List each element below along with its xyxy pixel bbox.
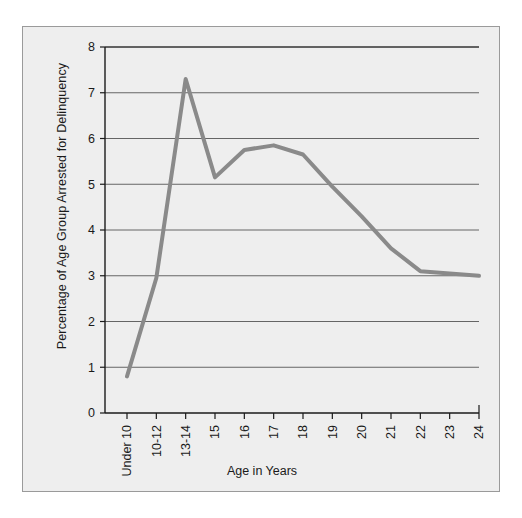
x-tick-label: 19 [326, 425, 340, 439]
y-tick-marks-group [100, 47, 105, 413]
data-series-line [127, 79, 479, 376]
x-tick-label: 20 [355, 425, 369, 439]
x-tick-label: 21 [384, 425, 398, 439]
y-tick-label: 6 [88, 132, 95, 146]
plot-container: Percentage of Age Group Arrested for Del… [23, 27, 501, 493]
y-tick-label: 2 [88, 315, 95, 329]
x-tick-label: 22 [414, 425, 428, 439]
y-tick-label: 0 [88, 406, 95, 420]
x-tick-label: 23 [443, 425, 457, 439]
chart-figure: Percentage of Age Group Arrested for Del… [22, 26, 500, 492]
x-tick-label: 24 [472, 425, 486, 439]
x-tick-label: 13-14 [179, 425, 193, 457]
x-tick-marks-group [127, 413, 479, 419]
y-tick-label: 8 [88, 40, 95, 54]
y-tick-label: 5 [88, 178, 95, 192]
gridlines-group [105, 47, 479, 413]
y-tick-label: 7 [88, 86, 95, 100]
x-tick-label: 18 [296, 425, 310, 439]
y-tick-label: 3 [88, 269, 95, 283]
x-tick-label: 10-12 [150, 425, 164, 457]
x-tick-label: 15 [208, 425, 222, 439]
y-tick-label: 1 [88, 361, 95, 375]
y-tick-labels-group: 012345678 [88, 40, 95, 420]
y-tick-label: 4 [88, 223, 95, 237]
x-axis-title: Age in Years [23, 464, 501, 478]
line-chart-svg: 012345678 Under 1010-1213-14151617181920… [23, 27, 501, 493]
x-tick-label: 17 [267, 425, 281, 439]
x-tick-label: 16 [238, 425, 252, 439]
